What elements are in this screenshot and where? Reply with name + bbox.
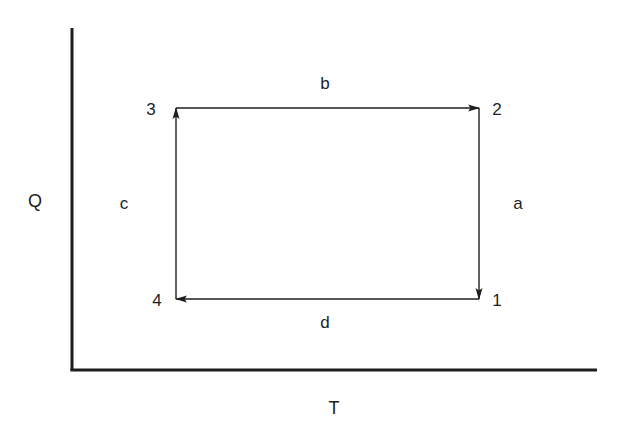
y-axis-label: Q: [28, 191, 42, 211]
edge-label-a: a: [513, 194, 523, 213]
x-axis-label: T: [329, 398, 340, 418]
cycle-diagram: Q T 3 2 1 4 b a c d: [0, 0, 619, 429]
node-label-1: 1: [492, 291, 501, 310]
cycle-edges: [176, 108, 479, 299]
node-label-2: 2: [492, 100, 501, 119]
edge-label-c: c: [120, 194, 129, 213]
node-label-3: 3: [146, 100, 155, 119]
edge-label-b: b: [320, 74, 329, 93]
edge-label-d: d: [320, 313, 329, 332]
node-label-4: 4: [152, 291, 161, 310]
